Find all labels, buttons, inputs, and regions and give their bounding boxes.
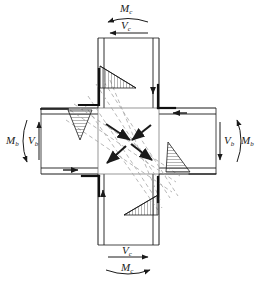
label-top-moment-symbol: M [120, 2, 129, 14]
label-bottom-shear-sub: c [129, 250, 132, 258]
left-moment-arc [23, 120, 27, 162]
label-bottom-moment: Mc [121, 262, 133, 273]
label-top-shear-symbol: V [121, 19, 128, 31]
label-left-moment: Mb [6, 135, 19, 146]
figure-canvas: Mc Vc Vc Mc Mb Vb Vb Mb [0, 0, 257, 283]
label-left-shear: Vb [28, 135, 38, 146]
label-right-moment-symbol: M [241, 134, 250, 146]
label-bottom-moment-sub: c [130, 267, 133, 275]
stress-block-top-left [100, 66, 136, 88]
joint-diagram-svg [0, 0, 257, 283]
label-bottom-shear: Vc [122, 245, 132, 256]
stress-block-right [166, 142, 190, 172]
label-right-shear: Vb [224, 135, 234, 146]
label-right-shear-symbol: V [224, 134, 231, 146]
stress-block-bottom [124, 195, 158, 215]
label-left-shear-sub: b [35, 140, 39, 148]
connection-stiffeners [41, 69, 216, 202]
label-left-shear-symbol: V [28, 134, 35, 146]
label-top-moment-sub: c [129, 8, 132, 16]
label-bottom-moment-symbol: M [121, 261, 130, 273]
panel-force-arrows [106, 124, 152, 163]
label-top-moment: Mc [120, 3, 132, 14]
label-right-moment-sub: b [250, 140, 254, 148]
label-top-shear-sub: c [128, 25, 131, 33]
label-right-shear-sub: b [231, 140, 235, 148]
label-left-moment-sub: b [15, 140, 19, 148]
label-left-moment-symbol: M [6, 134, 15, 146]
diagonal-compression-struts [66, 80, 180, 210]
label-top-shear: Vc [121, 20, 131, 31]
label-bottom-shear-symbol: V [122, 244, 129, 256]
stress-block-left [68, 110, 92, 140]
label-right-moment: Mb [241, 135, 254, 146]
